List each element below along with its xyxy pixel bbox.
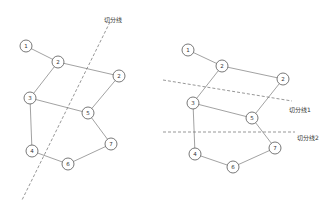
- node-5: 5: [246, 112, 258, 124]
- node-3: 3: [187, 97, 199, 109]
- node-2-right: 2: [277, 73, 289, 85]
- edge: [30, 98, 32, 151]
- svg-text:2: 2: [56, 59, 60, 65]
- svg-text:7: 7: [109, 141, 113, 147]
- svg-text:7: 7: [273, 145, 277, 151]
- node-6: 6: [227, 161, 239, 173]
- edge: [68, 144, 111, 164]
- edge: [88, 76, 119, 113]
- svg-text:4: 4: [30, 148, 34, 154]
- cut-line-2-label: 切分线2: [297, 134, 319, 142]
- svg-text:5: 5: [250, 115, 254, 121]
- node-2: 2: [216, 60, 228, 72]
- svg-text:3: 3: [191, 100, 195, 106]
- node-1: 1: [182, 44, 194, 56]
- graph-partition-diagram: 切分线 1 2 2 3 5 7 4 6 切分线1 切分线2 1 2 2 3 5 …: [0, 0, 327, 215]
- node-2: 2: [52, 56, 64, 68]
- node-4: 4: [189, 148, 201, 160]
- svg-text:5: 5: [86, 110, 90, 116]
- svg-text:2: 2: [220, 63, 224, 69]
- svg-text:6: 6: [66, 161, 70, 167]
- edge: [193, 103, 252, 118]
- svg-text:2: 2: [281, 76, 285, 82]
- edge: [193, 66, 222, 103]
- cut-line-label: 切分线: [104, 16, 122, 24]
- svg-text:2: 2: [117, 73, 121, 79]
- svg-text:3: 3: [28, 95, 32, 101]
- left-graph: 切分线 1 2 2 3 5 7 4 6: [20, 16, 125, 200]
- cut-line-1-label: 切分线1: [289, 106, 311, 114]
- cut-line-1: [163, 80, 292, 101]
- edge: [30, 98, 88, 113]
- edge: [222, 66, 283, 79]
- svg-text:6: 6: [231, 164, 235, 170]
- cut-line: [22, 22, 110, 200]
- right-graph: 切分线1 切分线2 1 2 2 3 5 7 4 6: [163, 44, 319, 173]
- edge: [58, 62, 119, 76]
- node-3: 3: [24, 92, 36, 104]
- node-5: 5: [82, 107, 94, 119]
- node-4: 4: [26, 145, 38, 157]
- right-edges: [188, 50, 283, 167]
- edge: [193, 103, 195, 154]
- edge: [233, 148, 275, 167]
- svg-text:4: 4: [193, 151, 197, 157]
- edge: [30, 62, 58, 98]
- svg-text:1: 1: [186, 47, 190, 53]
- node-2-right: 2: [113, 70, 125, 82]
- node-1: 1: [20, 40, 32, 52]
- svg-text:1: 1: [24, 43, 28, 49]
- node-7: 7: [105, 138, 117, 150]
- node-7: 7: [269, 142, 281, 154]
- node-6: 6: [62, 158, 74, 170]
